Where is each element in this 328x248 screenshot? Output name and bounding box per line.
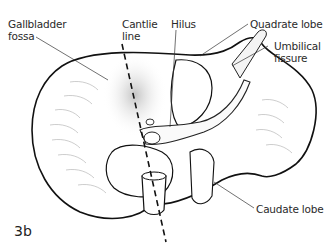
figure-number: 3b — [14, 223, 32, 239]
label-caudate-lobe: Caudate lobe — [256, 203, 324, 215]
label-cantlie-line2: line — [122, 30, 157, 42]
label-umbilical-line2: fissure — [274, 52, 321, 64]
label-quadrate-lobe: Quadrate lobe — [250, 18, 323, 30]
gallbladder-fossa-shading — [103, 53, 167, 137]
label-gallbladder-line2: fossa — [8, 30, 66, 42]
label-gallbladder-fossa: Gallbladder fossa — [8, 18, 66, 42]
label-hilus: Hilus — [171, 18, 196, 30]
label-gallbladder-line1: Gallbladder — [8, 18, 66, 30]
label-umbilical-fissure: Umbilical fissure — [274, 40, 321, 64]
label-cantlie-line: Cantlie line — [122, 18, 157, 42]
label-cantlie-line1: Cantlie — [122, 18, 157, 30]
label-umbilical-line1: Umbilical — [274, 40, 321, 52]
